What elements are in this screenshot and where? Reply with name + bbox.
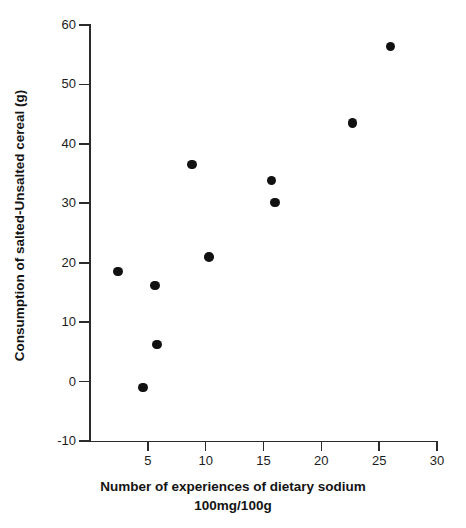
x-axis-label-line2: 100mg/100g [0, 496, 466, 515]
y-axis-tick-label: 10 [40, 314, 76, 329]
y-axis-tick [79, 381, 90, 383]
x-axis-tick-label: 15 [244, 453, 284, 468]
y-axis-tick [79, 143, 90, 145]
data-point [270, 198, 280, 208]
data-point [386, 42, 396, 52]
y-axis-tick-label: 0 [40, 374, 76, 389]
y-axis-tick [79, 24, 90, 26]
x-axis-label: Number of experiences of dietary sodium … [0, 477, 466, 515]
plot-area [90, 25, 437, 441]
data-point [267, 176, 277, 186]
y-axis-tick [79, 321, 90, 323]
x-axis-tick [436, 441, 438, 451]
y-axis-tick [79, 202, 90, 204]
x-axis-label-line1: Number of experiences of dietary sodium [100, 479, 366, 494]
y-axis-tick [79, 84, 90, 86]
scatter-plot-figure: Consumption of salted-Unsalted cereal (g… [0, 0, 466, 528]
y-axis-tick-label: 30 [40, 195, 76, 210]
x-axis-tick [205, 441, 207, 451]
y-axis-tick-label: 60 [40, 17, 76, 32]
x-axis-tick-label: 25 [359, 453, 399, 468]
data-point [348, 118, 358, 128]
data-point [187, 160, 197, 170]
x-axis-tick [378, 441, 380, 451]
x-axis-tick-label: 20 [301, 453, 341, 468]
x-axis-tick-label: 10 [186, 453, 226, 468]
y-axis-label-container: Consumption of salted-Unsalted cereal (g… [0, 0, 40, 450]
y-axis-tick-label: -10 [40, 433, 76, 448]
data-point [204, 252, 214, 262]
x-axis-tick-label: 5 [128, 453, 168, 468]
x-axis-tick [263, 441, 265, 451]
x-axis-tick [147, 441, 149, 451]
y-axis-tick-label: 40 [40, 136, 76, 151]
y-axis-tick-label: 20 [40, 255, 76, 270]
data-point [150, 281, 160, 291]
data-point [152, 340, 162, 350]
y-axis-tick [79, 440, 90, 442]
y-axis-tick [79, 262, 90, 264]
y-axis-label: Consumption of salted-Unsalted cereal (g… [13, 89, 28, 361]
x-axis-tick-label: 30 [417, 453, 457, 468]
x-axis-tick [321, 441, 323, 451]
data-point [113, 267, 123, 277]
y-axis-tick-label: 50 [40, 76, 76, 91]
data-point [138, 383, 148, 393]
